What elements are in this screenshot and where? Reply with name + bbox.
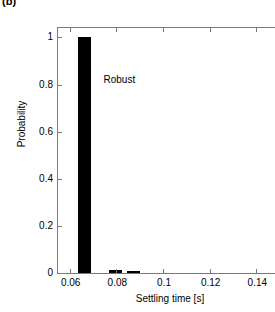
- y-tick: 0.6: [58, 132, 62, 133]
- x-tick-mirror: [256, 28, 257, 32]
- bar: [127, 271, 140, 273]
- x-axis-label: Settling time [s]: [57, 293, 275, 304]
- y-tick: 1: [58, 37, 62, 38]
- x-tick: 0.06: [70, 269, 71, 273]
- y-tick-label: 1: [47, 31, 53, 42]
- chart-figure: (b) Probability Settling time [s] Robust…: [0, 0, 275, 312]
- plot-area: Robust: [58, 28, 275, 273]
- x-tick-label: 0.12: [201, 277, 220, 288]
- plot-frame: Robust 00.20.40.60.810.060.080.10.120.14: [57, 27, 275, 274]
- x-tick-label: 0.1: [157, 277, 171, 288]
- bar: [109, 270, 122, 273]
- x-tick-mirror: [163, 28, 164, 32]
- x-tick: 0.08: [116, 269, 117, 273]
- y-tick-label: 0.8: [39, 79, 53, 90]
- x-tick-mirror: [70, 28, 71, 32]
- y-tick: 0.2: [58, 226, 62, 227]
- panel-label: (b): [2, 0, 16, 7]
- y-tick: 0: [58, 273, 62, 274]
- x-tick: 0.1: [163, 269, 164, 273]
- y-tick-label: 0: [47, 267, 53, 278]
- y-tick-label: 0.6: [39, 126, 53, 137]
- x-tick: 0.14: [256, 269, 257, 273]
- x-tick-label: 0.08: [108, 277, 127, 288]
- x-tick: 0.12: [210, 269, 211, 273]
- x-tick-label: 0.06: [61, 277, 80, 288]
- plot-annotation: Robust: [104, 74, 136, 85]
- x-tick-mirror: [210, 28, 211, 32]
- x-tick-label: 0.14: [248, 277, 267, 288]
- y-tick: 0.8: [58, 85, 62, 86]
- y-axis-label: Probability: [16, 101, 27, 148]
- y-tick-label: 0.2: [39, 220, 53, 231]
- y-tick-label: 0.4: [39, 173, 53, 184]
- y-tick: 0.4: [58, 179, 62, 180]
- x-tick-mirror: [116, 28, 117, 32]
- bar: [78, 37, 91, 273]
